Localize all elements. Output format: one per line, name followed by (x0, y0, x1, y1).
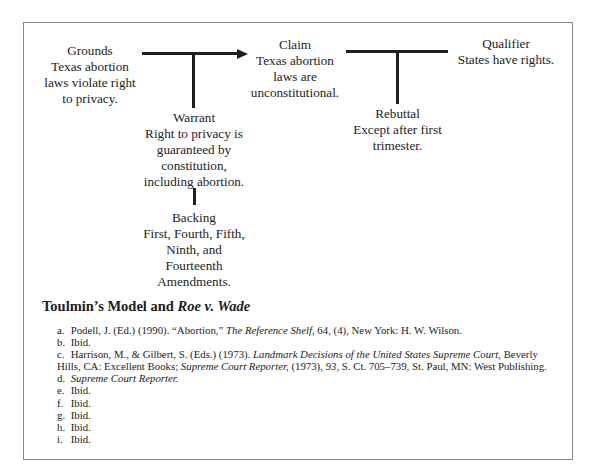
backing-line: Fourteenth (133, 258, 255, 274)
warrant-line: constitution, (133, 158, 255, 174)
claim-line: Texas abortion (245, 53, 345, 69)
grounds-line: to privacy. (40, 91, 140, 107)
grounds-node: Grounds Texas abortion laws violate righ… (40, 43, 140, 107)
rebuttal-line: Except after first (340, 122, 455, 138)
warrant-line: guaranteed by (133, 142, 255, 158)
footnote-text: The Reference Shelf (226, 324, 312, 336)
warrant-line: Right to privacy is (133, 126, 255, 142)
footnote-label: f. (57, 397, 68, 409)
qualifier-line: States have rights. (446, 52, 566, 68)
rebuttal-connector (396, 51, 399, 104)
backing-line: Amendments. (133, 274, 255, 290)
footnote-text: Ibid. (71, 409, 91, 421)
warrant-node: Warrant Right to privacy is guaranteed b… (133, 110, 255, 190)
rebuttal-line: trimester. (340, 138, 455, 154)
claim-line: laws are (245, 69, 345, 85)
footnote-label: b. (57, 336, 68, 348)
qualifier-node: Qualifier States have rights. (446, 36, 566, 68)
footnote-label: a. (57, 324, 68, 336)
caption-prefix: Toulmin’s Model and (42, 298, 178, 314)
footnote-text: 93 (326, 360, 337, 372)
footnote-item: f. Ibid. (57, 397, 557, 409)
backing-title: Backing (133, 210, 255, 226)
footnote-item: h. Ibid. (57, 421, 557, 433)
backing-node: Backing First, Fourth, Fifth, Ninth, and… (133, 210, 255, 290)
footnote-text: Ibid. (71, 384, 91, 396)
footnote-item: d. Supreme Court Reporter. (57, 372, 557, 384)
footnote-text: (1973), (289, 360, 326, 372)
grounds-line: laws violate right (40, 75, 140, 91)
backing-line: Ninth, and (133, 242, 255, 258)
footnote-text: Harrison, M., & Gilbert, S. (Eds.) (1973… (71, 348, 253, 360)
footnote-text: , S. Ct. 705–739, St. Paul, MN: West Pub… (336, 360, 546, 372)
claim-title: Claim (245, 37, 345, 53)
qualifier-title: Qualifier (446, 36, 566, 52)
footnote-text: Ibid. (71, 336, 91, 348)
footnotes-list: a. Podell, J. (Ed.) (1990). “Abortion,” … (57, 324, 557, 445)
caption-case-name: Roe v. Wade (178, 298, 251, 314)
footnote-label: d. (57, 372, 68, 384)
backing-line: First, Fourth, Fifth, (133, 226, 255, 242)
grounds-line: Texas abortion (40, 59, 140, 75)
footnote-item: c. Harrison, M., & Gilbert, S. (Eds.) (1… (57, 348, 557, 372)
rebuttal-node: Rebuttal Except after first trimester. (340, 106, 455, 154)
footnote-item: g. Ibid. (57, 409, 557, 421)
footnote-label: g. (57, 409, 68, 421)
footnote-item: e. Ibid. (57, 384, 557, 396)
footnote-item: a. Podell, J. (Ed.) (1990). “Abortion,” … (57, 324, 557, 336)
claim-node: Claim Texas abortion laws are unconstitu… (245, 37, 345, 101)
claim-line: unconstitutional. (245, 85, 345, 101)
footnote-label: e. (57, 384, 68, 396)
grounds-title: Grounds (40, 43, 140, 59)
footnote-text: Ibid. (71, 421, 91, 433)
footnote-text: , 64, (4), New York: H. W. Wilson. (312, 324, 462, 336)
footnote-text: Ibid. (71, 433, 91, 445)
warrant-title: Warrant (133, 110, 255, 126)
footnote-item: i. Ibid. (57, 433, 557, 445)
rebuttal-title: Rebuttal (340, 106, 455, 122)
figure-caption: Toulmin’s Model and Roe v. Wade (42, 298, 250, 315)
backing-connector (193, 188, 196, 205)
footnote-text: Landmark Decisions of the United States … (253, 348, 498, 360)
footnote-text: Supreme Court Reporter, (181, 360, 289, 372)
footnote-label: h. (57, 421, 68, 433)
footnote-text: Supreme Court Reporter. (71, 372, 179, 384)
footnote-text: Podell, J. (Ed.) (1990). “Abortion,” (71, 324, 226, 336)
footnote-text: Ibid. (71, 397, 91, 409)
footnote-item: b. Ibid. (57, 336, 557, 348)
footnote-label: c. (57, 348, 68, 360)
footnote-label: i. (57, 433, 68, 445)
warrant-connector (192, 53, 195, 108)
